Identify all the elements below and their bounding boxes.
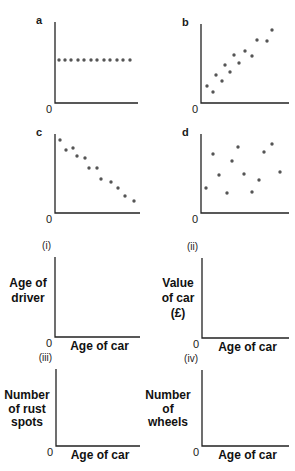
data-point bbox=[108, 58, 111, 61]
y-axis-label-line: of car bbox=[162, 291, 195, 305]
data-point bbox=[228, 70, 231, 73]
y-axis-label-line: wheels bbox=[147, 415, 188, 429]
y-axis-label-line: of rust bbox=[8, 402, 45, 416]
data-point bbox=[255, 38, 258, 41]
chart-a: a0 bbox=[36, 14, 138, 115]
chart-c: c0 bbox=[36, 126, 140, 225]
data-point bbox=[102, 58, 105, 61]
data-point bbox=[71, 146, 74, 149]
data-point bbox=[99, 177, 102, 180]
data-point bbox=[75, 154, 78, 157]
data-point bbox=[205, 84, 208, 87]
y-axis-label-line: (£) bbox=[171, 306, 186, 320]
data-point bbox=[220, 79, 223, 82]
data-point bbox=[95, 166, 98, 169]
data-point bbox=[223, 63, 226, 66]
y-axis-label-line: spots bbox=[11, 415, 43, 429]
data-point bbox=[57, 58, 60, 61]
axes bbox=[55, 134, 140, 213]
data-point bbox=[58, 138, 61, 141]
data-point bbox=[87, 166, 90, 169]
axes bbox=[202, 258, 289, 338]
y-axis-label-line: Value bbox=[162, 276, 194, 290]
data-point bbox=[82, 58, 85, 61]
data-point bbox=[270, 28, 273, 31]
data-point bbox=[95, 58, 98, 61]
chart-iii: (iii)0Age of carNumberof rustspots bbox=[4, 352, 140, 462]
origin-label: 0 bbox=[46, 213, 52, 225]
chart-b: b0 bbox=[182, 16, 289, 115]
y-axis-label-line: driver bbox=[11, 291, 45, 305]
axes bbox=[55, 257, 140, 337]
origin-label: 0 bbox=[193, 338, 199, 350]
chart-iv: (iv)0Age of carNumberofwheels bbox=[145, 353, 289, 462]
data-point bbox=[237, 61, 240, 64]
data-point bbox=[109, 180, 112, 183]
chart-ii: (ii)0Age of carValueof car(£) bbox=[162, 241, 289, 354]
data-point bbox=[250, 54, 253, 57]
origin-label: 0 bbox=[192, 213, 198, 225]
y-axis-label-line: Number bbox=[4, 388, 50, 402]
data-point bbox=[63, 58, 66, 61]
axes bbox=[55, 22, 138, 103]
data-point bbox=[69, 58, 72, 61]
data-point bbox=[211, 90, 214, 93]
data-point bbox=[217, 173, 220, 176]
data-point bbox=[89, 58, 92, 61]
data-point bbox=[242, 172, 245, 175]
panel-label: (i) bbox=[42, 240, 51, 251]
x-axis-label: Age of car bbox=[218, 340, 277, 354]
panel-label: c bbox=[36, 126, 42, 138]
chart-d: d0 bbox=[182, 126, 289, 225]
x-axis-label: Age of car bbox=[71, 448, 130, 462]
y-axis-label-line: of bbox=[162, 402, 174, 416]
data-point bbox=[230, 159, 233, 162]
x-axis-label: Age of car bbox=[218, 448, 277, 462]
scatter-graphs-figure: a0b0c0d0(i)0Age of carAge ofdriver(ii)0A… bbox=[0, 0, 295, 471]
chart-i: (i)0Age of carAge ofdriver bbox=[9, 240, 140, 353]
panel-label: (iv) bbox=[184, 353, 198, 364]
data-point bbox=[123, 194, 126, 197]
data-point bbox=[262, 150, 265, 153]
data-point bbox=[64, 148, 67, 151]
data-point bbox=[232, 53, 235, 56]
origin-label: 0 bbox=[46, 103, 52, 115]
data-point bbox=[116, 186, 119, 189]
origin-label: 0 bbox=[193, 446, 199, 458]
panel-label: (iii) bbox=[39, 352, 52, 363]
data-point bbox=[211, 152, 214, 155]
data-point bbox=[278, 170, 281, 173]
data-point bbox=[265, 39, 268, 42]
panel-label: (ii) bbox=[187, 241, 198, 252]
y-axis-label-line: Age of bbox=[9, 276, 47, 290]
data-point bbox=[214, 73, 217, 76]
data-point bbox=[270, 142, 273, 145]
x-axis-label: Age of car bbox=[70, 339, 129, 353]
data-point bbox=[121, 58, 124, 61]
data-point bbox=[243, 49, 246, 52]
origin-label: 0 bbox=[47, 446, 53, 458]
origin-label: 0 bbox=[46, 337, 52, 349]
data-point bbox=[115, 58, 118, 61]
origin-label: 0 bbox=[192, 103, 198, 115]
axes bbox=[202, 370, 289, 446]
y-axis-label-line: Number bbox=[145, 388, 191, 402]
data-point bbox=[128, 58, 131, 61]
axes bbox=[56, 369, 140, 446]
panel-label: d bbox=[182, 126, 189, 138]
data-point bbox=[257, 178, 260, 181]
panel-label: a bbox=[36, 14, 43, 26]
data-point bbox=[83, 156, 86, 159]
data-point bbox=[236, 145, 239, 148]
data-point bbox=[250, 190, 253, 193]
panel-label: b bbox=[182, 16, 189, 28]
data-point bbox=[225, 191, 228, 194]
data-point bbox=[204, 186, 207, 189]
data-point bbox=[132, 199, 135, 202]
data-point bbox=[76, 58, 79, 61]
